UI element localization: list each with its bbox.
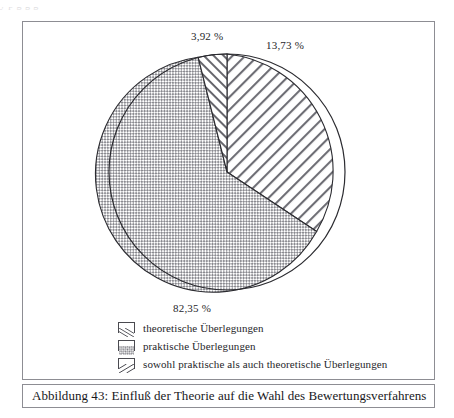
figure-caption-box: Abbildung 43: Einfluß der Theorie auf di… [22, 384, 435, 408]
legend-item-practical: praktische Überlegungen [118, 337, 428, 354]
legend-item-theoretical: theoretische Überlegungen [118, 319, 428, 336]
pie-label-both: 13,73 % [266, 39, 304, 51]
legend-swatch-both [118, 358, 135, 369]
forward-slash-hatch-icon [119, 364, 134, 373]
figure-caption-text: Abbildung 43: Einfluß der Theorie auf di… [23, 388, 426, 404]
legend-label-theoretical: theoretische Überlegungen [143, 322, 264, 334]
chart-legend: theoretische Überlegungen praktische Übe… [118, 319, 428, 373]
dense-hatch-icon [119, 346, 134, 355]
pie-label-practical: 3,92 % [191, 30, 223, 42]
backslash-hatch-icon [119, 328, 134, 337]
figure-frame: 3,92 % 13,73 % 82,35 % theoretische Über… [22, 21, 435, 380]
legend-item-both: sowohl praktische als auch theoretische … [118, 355, 428, 372]
scan-top-text-remnant: y p g g g [0, 0, 454, 10]
legend-swatch-theoretical [118, 322, 135, 333]
pie-label-theoretical: 82,35 % [173, 302, 211, 314]
legend-swatch-practical [118, 340, 135, 351]
legend-label-practical: praktische Überlegungen [143, 340, 256, 352]
legend-label-both: sowohl praktische als auch theoretische … [143, 358, 387, 370]
